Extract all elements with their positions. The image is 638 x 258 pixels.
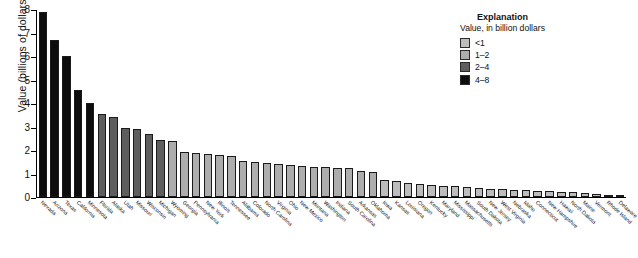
- y-tick-label: 3: [16, 123, 30, 133]
- bar[interactable]: [251, 162, 259, 197]
- legend-item: <1: [460, 38, 590, 48]
- bar[interactable]: [404, 183, 412, 197]
- legend-item-label: 2–4: [475, 62, 489, 72]
- legend-item-label: 4–8: [475, 75, 489, 85]
- bar[interactable]: [616, 195, 624, 197]
- legend-item-label: <1: [475, 38, 485, 48]
- bar-cell: [190, 10, 202, 197]
- chart-root: Value (billions of dollars) 012345678 Ne…: [0, 0, 638, 258]
- bar-cell: [96, 10, 108, 197]
- legend-swatch-icon: [460, 38, 470, 48]
- bar[interactable]: [581, 193, 589, 197]
- bar[interactable]: [62, 56, 70, 197]
- bar-cell: [614, 10, 626, 197]
- bar[interactable]: [604, 195, 612, 197]
- legend-item: 1–2: [460, 50, 590, 60]
- bar-cell: [119, 10, 131, 197]
- bar[interactable]: [345, 168, 353, 197]
- legend-swatch-icon: [460, 62, 470, 72]
- bar-cell: [84, 10, 96, 197]
- bar[interactable]: [557, 192, 565, 197]
- bar-cell: [61, 10, 73, 197]
- bar-cell: [249, 10, 261, 197]
- bar[interactable]: [50, 40, 58, 197]
- bar-cell: [108, 10, 120, 197]
- bar-cell: [591, 10, 603, 197]
- bar-cell: [308, 10, 320, 197]
- y-axis-ticks: 012345678: [14, 8, 36, 198]
- legend-swatch-icon: [460, 75, 470, 85]
- bar-cell: [49, 10, 61, 197]
- bar-cell: [37, 10, 49, 197]
- bar[interactable]: [451, 186, 459, 197]
- bar[interactable]: [380, 180, 388, 197]
- bar-cell: [261, 10, 273, 197]
- legend: Explanation Value, in billion dollars <1…: [415, 12, 590, 87]
- bar[interactable]: [369, 172, 377, 197]
- legend-title: Explanation: [415, 12, 590, 22]
- bar-cell: [355, 10, 367, 197]
- y-tick-label: 8: [16, 5, 30, 15]
- bar[interactable]: [545, 191, 553, 197]
- bar[interactable]: [475, 188, 483, 197]
- bar[interactable]: [310, 167, 318, 197]
- bar[interactable]: [39, 12, 47, 197]
- bar[interactable]: [392, 181, 400, 197]
- bar[interactable]: [486, 189, 494, 197]
- legend-item: 4–8: [460, 75, 590, 85]
- y-tick-mark: [31, 198, 36, 199]
- bar[interactable]: [168, 141, 176, 197]
- bar[interactable]: [416, 184, 424, 197]
- bar-cell: [273, 10, 285, 197]
- bar[interactable]: [109, 117, 117, 197]
- bar[interactable]: [510, 190, 518, 197]
- bar[interactable]: [192, 153, 200, 197]
- bar[interactable]: [569, 192, 577, 197]
- bar-cell: [603, 10, 615, 197]
- bar[interactable]: [74, 90, 82, 197]
- bar-cell: [167, 10, 179, 197]
- bar[interactable]: [215, 155, 223, 197]
- bar-cell: [320, 10, 332, 197]
- y-tick-label: 4: [16, 99, 30, 109]
- bar[interactable]: [592, 194, 600, 197]
- bar[interactable]: [121, 128, 129, 197]
- bar-cell: [367, 10, 379, 197]
- bar-cell: [202, 10, 214, 197]
- bar[interactable]: [98, 114, 106, 197]
- bar-cell: [332, 10, 344, 197]
- legend-item: 2–4: [460, 62, 590, 72]
- legend-item-label: 1–2: [475, 50, 489, 60]
- bar[interactable]: [427, 185, 435, 197]
- bar[interactable]: [263, 163, 271, 197]
- bar[interactable]: [533, 191, 541, 197]
- bar[interactable]: [321, 167, 329, 197]
- bar[interactable]: [133, 129, 141, 197]
- bar[interactable]: [522, 190, 530, 197]
- bar-cell: [237, 10, 249, 197]
- bar[interactable]: [274, 164, 282, 197]
- bar[interactable]: [86, 103, 94, 197]
- legend-subtitle: Value, in billion dollars: [415, 23, 590, 33]
- bar[interactable]: [204, 154, 212, 197]
- bar[interactable]: [239, 161, 247, 197]
- bar[interactable]: [227, 156, 235, 197]
- bar[interactable]: [156, 140, 164, 197]
- bar[interactable]: [463, 187, 471, 197]
- bar[interactable]: [286, 165, 294, 197]
- bar[interactable]: [498, 189, 506, 197]
- bar[interactable]: [145, 134, 153, 197]
- bar-cell: [226, 10, 238, 197]
- y-tick-label: 5: [16, 76, 30, 86]
- bar-cell: [178, 10, 190, 197]
- bar[interactable]: [357, 171, 365, 197]
- y-tick-label: 0: [16, 193, 30, 203]
- bar-cell: [214, 10, 226, 197]
- y-tick-label: 6: [16, 52, 30, 62]
- bar[interactable]: [180, 152, 188, 197]
- bar[interactable]: [439, 186, 447, 197]
- bar[interactable]: [298, 166, 306, 197]
- bar-cell: [390, 10, 402, 197]
- bar-cell: [402, 10, 414, 197]
- bar[interactable]: [333, 168, 341, 197]
